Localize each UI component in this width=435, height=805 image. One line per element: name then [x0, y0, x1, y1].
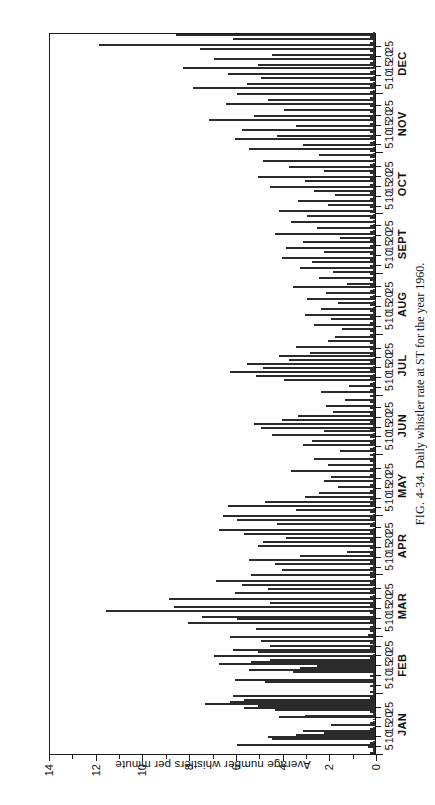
bar	[370, 273, 375, 275]
bar	[370, 657, 375, 659]
bar	[293, 671, 375, 673]
bar	[370, 316, 375, 318]
bar	[219, 663, 375, 665]
bar	[373, 255, 375, 257]
y-axis-minor-tick	[213, 755, 214, 759]
x-axis-tick	[376, 105, 381, 106]
bar	[312, 261, 375, 263]
x-axis-tick-label: 25	[383, 463, 395, 475]
y-axis-tick	[283, 755, 284, 761]
bar	[370, 156, 375, 158]
bar	[373, 522, 375, 524]
bar	[373, 133, 375, 135]
bar-series	[50, 34, 375, 754]
bar	[286, 247, 375, 249]
bar	[370, 348, 375, 350]
bar	[370, 642, 375, 644]
bar	[373, 275, 375, 277]
bar	[373, 312, 375, 314]
bar	[324, 251, 375, 253]
bar	[373, 587, 375, 589]
bar	[333, 271, 375, 273]
bar	[235, 139, 375, 141]
x-axis-tick	[376, 427, 381, 428]
bar	[328, 464, 375, 466]
bar	[370, 212, 375, 214]
bar	[282, 257, 375, 259]
y-axis-tick	[329, 755, 330, 761]
x-axis-tick	[376, 646, 381, 647]
bar	[347, 551, 375, 553]
x-axis-month-label: JUL	[396, 354, 408, 376]
bar	[370, 198, 375, 200]
bar	[370, 539, 375, 541]
bar	[373, 344, 375, 346]
bar	[293, 286, 375, 288]
bar	[279, 356, 375, 358]
figure-caption: FIG. 4-34. Daily whistler rate at ST for…	[413, 33, 428, 755]
bar	[328, 340, 375, 342]
bar	[324, 170, 375, 172]
bar	[319, 492, 375, 494]
bar	[370, 428, 375, 430]
x-axis-tick	[376, 754, 383, 755]
bar	[174, 606, 375, 608]
bar	[183, 67, 375, 69]
bar	[373, 153, 375, 155]
bar	[373, 289, 375, 291]
bar	[268, 588, 375, 590]
bar	[373, 350, 375, 352]
x-axis-tick	[376, 588, 381, 589]
bar	[373, 472, 375, 474]
bar	[258, 545, 375, 547]
y-axis-tick	[376, 755, 377, 761]
bar	[249, 559, 375, 561]
x-axis-tick	[376, 135, 381, 136]
x-axis-tick-label: 5	[383, 444, 395, 450]
y-axis-minor-tick	[259, 755, 260, 759]
bar	[209, 119, 375, 121]
bar	[373, 494, 375, 496]
x-axis-month-label: APR	[396, 534, 408, 558]
bar	[205, 703, 376, 705]
bar	[370, 231, 375, 233]
x-axis-tick	[376, 358, 381, 359]
bar	[242, 129, 375, 131]
bar	[370, 253, 375, 255]
bar	[370, 142, 375, 144]
bar	[289, 359, 375, 361]
x-axis-tick-label: 25	[383, 640, 395, 652]
figure-caption-text: Daily whistler rate at ST for the year 1…	[413, 263, 427, 469]
x-axis-tick	[376, 628, 381, 629]
bar	[373, 397, 375, 399]
bar	[370, 342, 375, 344]
x-axis-tick-label: 25	[383, 702, 395, 714]
bar	[373, 32, 375, 34]
bar	[370, 245, 375, 247]
x-axis-tick-label: 5	[383, 83, 395, 89]
bar	[373, 113, 375, 115]
bar	[370, 567, 375, 569]
bar	[242, 584, 375, 586]
bar	[370, 468, 375, 470]
bar	[373, 40, 375, 42]
bar	[373, 417, 375, 419]
bar	[373, 326, 375, 328]
bar	[305, 314, 375, 316]
bar	[270, 645, 375, 647]
bar	[296, 125, 375, 127]
bar	[370, 531, 375, 533]
bar	[373, 727, 375, 729]
bar	[373, 478, 375, 480]
bar	[373, 159, 375, 161]
bar	[370, 304, 375, 306]
bar	[373, 188, 375, 190]
bar	[373, 182, 375, 184]
bar	[233, 38, 375, 40]
bar	[289, 166, 375, 168]
x-axis-tick	[376, 56, 381, 57]
bar	[370, 626, 375, 628]
bar	[277, 135, 375, 137]
x-axis-tick	[376, 395, 383, 396]
bar	[303, 241, 375, 243]
